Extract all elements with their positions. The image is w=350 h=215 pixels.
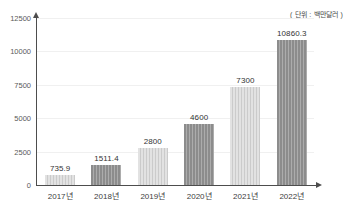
bar[interactable] [91, 165, 121, 185]
bar-value-label: 735.9 [50, 164, 71, 173]
bar[interactable] [184, 124, 214, 185]
bar-value-label: 7300 [236, 76, 254, 85]
bar[interactable] [138, 148, 168, 185]
x-axis-tick-labels: 2017년2018년2019년2020년2021년2022년 [37, 190, 315, 201]
bar-chart: ( 단위 : 백만달러 ) 02500500075001000012500 73… [0, 0, 350, 215]
x-tick-label: 2020년 [176, 190, 222, 201]
x-axis-line [36, 185, 317, 186]
y-tick-label: 10000 [0, 47, 31, 56]
y-tick-label: 7500 [0, 80, 31, 89]
x-tick-label: 2018년 [83, 190, 129, 201]
x-tick-label: 2019년 [130, 190, 176, 201]
bar[interactable] [230, 87, 260, 185]
x-tick-label: 2021년 [222, 190, 268, 201]
bar-value-label: 4600 [190, 113, 208, 122]
bar-value-label: 2800 [144, 137, 162, 146]
bar-group: 4600 [176, 18, 222, 185]
x-tick-label: 2017년 [37, 190, 83, 201]
bar-group: 1511.4 [83, 18, 129, 185]
bar-series: 735.91511.428004600730010860.3 [37, 18, 315, 185]
bar-group: 10860.3 [269, 18, 315, 185]
bar-group: 735.9 [37, 18, 83, 185]
bar-group: 7300 [222, 18, 268, 185]
bar[interactable] [277, 40, 307, 185]
y-tick-label: 2500 [0, 147, 31, 156]
y-tick-label: 5000 [0, 114, 31, 123]
bar-value-label: 10860.3 [277, 29, 307, 38]
y-tick-label: 12500 [0, 14, 31, 23]
bar[interactable] [45, 175, 75, 185]
x-axis-arrow-icon [316, 182, 322, 188]
y-tick-label: 0 [0, 181, 31, 190]
x-tick-label: 2022년 [269, 190, 315, 201]
bar-value-label: 1511.4 [94, 154, 118, 163]
bar-group: 2800 [130, 18, 176, 185]
